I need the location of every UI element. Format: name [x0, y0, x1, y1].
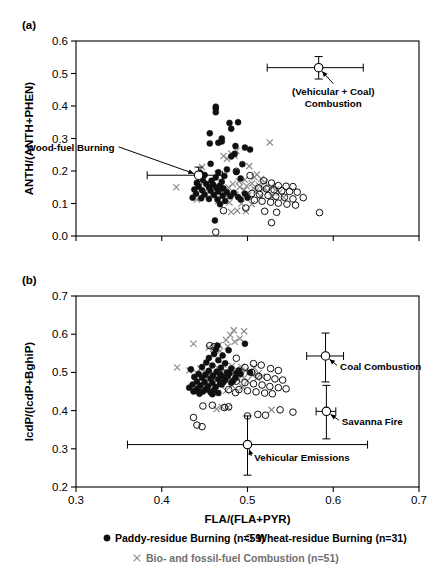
y-tick-label-a-6: 0.6 — [52, 35, 68, 47]
data-point — [209, 391, 215, 397]
data-point — [235, 119, 241, 125]
data-point — [225, 373, 231, 379]
data-point — [224, 166, 230, 172]
data-point — [241, 328, 247, 334]
data-point — [253, 389, 260, 396]
reference-marker — [322, 407, 330, 415]
data-point — [237, 184, 243, 190]
data-point — [268, 407, 274, 413]
x-tick-label-b-4: 0.7 — [411, 494, 427, 506]
data-point — [268, 219, 275, 226]
legend-label-0: Paddy-residue Burning (n=59) — [115, 532, 265, 544]
data-point — [237, 335, 243, 341]
data-point — [207, 130, 213, 136]
x-tick-label-b-0: 0.3 — [68, 494, 84, 506]
data-point — [250, 360, 257, 367]
reference-point-a-1: (Vehicular + Coal)Combustion — [267, 57, 374, 109]
data-point — [204, 387, 210, 393]
data-point — [232, 339, 238, 345]
data-point — [267, 199, 274, 206]
data-point — [279, 188, 286, 195]
data-point — [217, 201, 223, 207]
data-point — [190, 341, 196, 347]
data-point — [264, 374, 271, 381]
data-point — [259, 382, 266, 389]
data-point — [275, 367, 282, 374]
data-point — [275, 200, 282, 207]
data-point — [292, 202, 299, 209]
data-point — [267, 365, 274, 372]
reference-point-a-0: Wood-fuel Burning — [27, 142, 223, 184]
data-point — [208, 161, 214, 167]
data-point — [196, 391, 202, 397]
data-point — [215, 140, 221, 146]
scatter-figure: (a)0.00.10.20.30.40.50.6ANTH/(ANTH+PHEN)… — [0, 0, 447, 580]
y-tick-label-b-2: 0.4 — [52, 405, 69, 417]
leader-line — [119, 147, 194, 174]
data-point — [190, 414, 197, 421]
data-point — [219, 382, 225, 388]
data-point — [199, 364, 205, 370]
y-tick-label-a-1: 0.1 — [52, 198, 68, 210]
data-point — [188, 366, 194, 372]
data-point — [286, 188, 293, 195]
data-point — [209, 402, 216, 409]
data-point — [242, 341, 248, 347]
data-point — [251, 174, 257, 180]
data-point — [212, 229, 219, 236]
data-point — [269, 390, 276, 397]
reference-label: Coal Combustion — [340, 361, 421, 372]
data-point — [198, 195, 204, 201]
data-point — [239, 161, 245, 167]
legend-marker-cross — [134, 555, 141, 562]
x-tick-label-b-1: 0.4 — [154, 494, 171, 506]
y-axis-title-b: IcdP/(IcdP+BghiP) — [23, 342, 35, 442]
figure-container: (a)0.00.10.20.30.40.50.6ANTH/(ANTH+PHEN)… — [0, 0, 447, 580]
data-point — [234, 208, 240, 214]
x-tick-label-b-3: 0.6 — [325, 494, 341, 506]
data-point — [174, 364, 180, 370]
data-point — [226, 120, 232, 126]
plot-frame-a — [76, 41, 419, 236]
data-point — [228, 153, 234, 159]
data-point — [316, 209, 323, 216]
y-tick-label-a-4: 0.4 — [52, 100, 69, 112]
data-point — [220, 207, 227, 214]
data-point — [227, 193, 233, 199]
data-point — [279, 377, 286, 384]
data-point — [215, 357, 221, 363]
series-a-cross — [173, 139, 286, 215]
data-point — [231, 327, 237, 333]
data-point — [300, 194, 307, 201]
data-point — [267, 139, 273, 145]
data-point — [268, 180, 275, 187]
data-point — [238, 175, 244, 181]
data-point — [220, 153, 226, 159]
data-point — [206, 196, 212, 202]
legend: Paddy-residue Burning (n=59)Wheat-residu… — [104, 532, 407, 564]
reference-label: Savanna Fire — [342, 416, 404, 427]
panel-b: (b)0.20.30.40.50.60.70.30.40.50.60.7IcdP… — [22, 274, 427, 525]
data-point — [226, 347, 232, 353]
y-tick-label-b-0: 0.2 — [52, 481, 68, 493]
data-point — [284, 201, 291, 208]
data-point — [261, 390, 268, 397]
y-axis-title-a: ANTH/(ANTH+PHEN) — [23, 82, 35, 196]
y-tick-label-b-4: 0.6 — [52, 328, 68, 340]
data-point — [281, 194, 288, 201]
y-tick-label-b-1: 0.3 — [52, 443, 68, 455]
data-point — [220, 353, 226, 359]
data-point — [261, 208, 268, 215]
data-point — [190, 389, 196, 395]
panel-a: (a)0.00.10.20.30.40.50.6ANTH/(ANTH+PHEN)… — [22, 19, 419, 242]
data-point — [213, 109, 219, 115]
legend-label-2: Bio- and fossil-fuel Combustion (n=51) — [146, 552, 339, 564]
data-point — [242, 205, 249, 212]
data-point — [273, 209, 280, 216]
data-point — [294, 189, 301, 196]
data-point — [250, 381, 257, 388]
panel-letter-b: (b) — [22, 274, 37, 286]
reference-marker — [243, 440, 251, 448]
reference-point-b-1: Savanna Fire — [316, 385, 403, 438]
data-point — [290, 196, 297, 203]
